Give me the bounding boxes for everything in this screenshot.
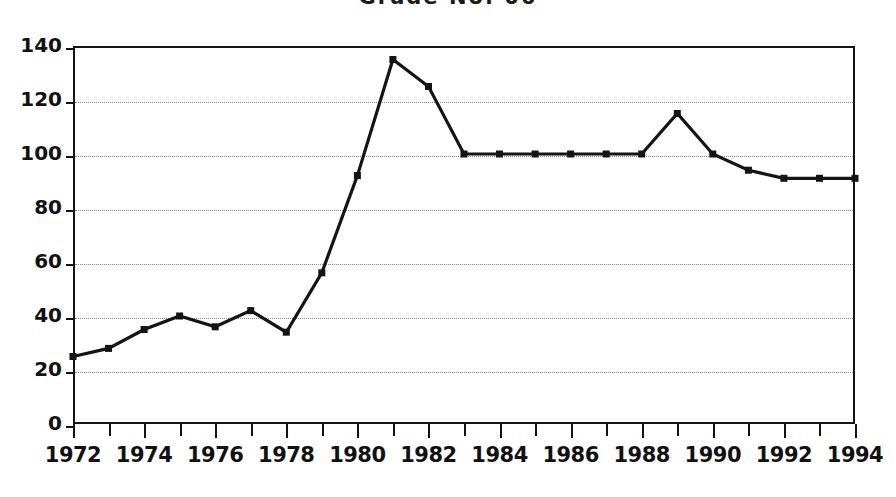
data-point xyxy=(70,353,77,360)
data-point xyxy=(638,151,645,158)
data-point xyxy=(603,151,610,158)
data-point xyxy=(532,151,539,158)
data-point xyxy=(852,175,859,182)
data-point xyxy=(176,313,183,320)
series-line xyxy=(73,60,855,357)
data-point xyxy=(425,83,432,90)
data-point xyxy=(283,329,290,336)
data-point xyxy=(141,326,148,333)
data-point xyxy=(461,151,468,158)
data-point xyxy=(318,269,325,276)
data-point xyxy=(354,172,361,179)
data-point xyxy=(674,110,681,117)
data-point xyxy=(496,151,503,158)
data-point xyxy=(709,151,716,158)
data-point xyxy=(567,151,574,158)
data-point xyxy=(212,323,219,330)
data-point xyxy=(816,175,823,182)
data-point xyxy=(389,56,396,63)
data-point xyxy=(780,175,787,182)
chart-figure: Grade No. 06 020406080100120140 19721974… xyxy=(0,0,896,497)
data-point xyxy=(745,167,752,174)
data-point xyxy=(105,345,112,352)
data-series-layer xyxy=(0,0,896,497)
series-markers xyxy=(70,56,859,360)
data-point xyxy=(247,307,254,314)
